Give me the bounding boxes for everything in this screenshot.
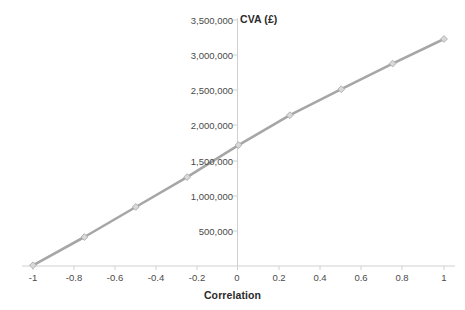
cva-correlation-chart: CVA (£) Correlation 500,000 1,000,000 1,… bbox=[0, 0, 465, 310]
x-tick-label-1: 1 bbox=[441, 272, 446, 283]
x-tick-label-0-6: 0.6 bbox=[354, 272, 367, 283]
y-tick-label-1500000: 1,500,000 bbox=[191, 156, 233, 167]
x-axis-title: Correlation bbox=[0, 289, 465, 301]
x-tick-label-neg0-2: -0.2 bbox=[189, 272, 205, 283]
y-tick-label-3000000: 3,000,000 bbox=[191, 50, 233, 61]
x-axis-tick-marks bbox=[33, 266, 444, 270]
series-line-cva bbox=[33, 39, 444, 265]
x-tick-label-neg0-4: -0.4 bbox=[148, 272, 164, 283]
x-tick-label-neg1: -1 bbox=[29, 272, 37, 283]
chart-title: CVA (£) bbox=[240, 13, 277, 25]
y-tick-label-1000000: 1,000,000 bbox=[191, 191, 233, 202]
x-tick-label-0-4: 0.4 bbox=[313, 272, 326, 283]
y-tick-label-3500000: 3,500,000 bbox=[191, 15, 233, 26]
y-axis-tick-marks bbox=[233, 20, 238, 231]
y-tick-label-500000: 500,000 bbox=[199, 226, 233, 237]
y-tick-label-2500000: 2,500,000 bbox=[191, 85, 233, 96]
x-tick-label-neg0-6: -0.6 bbox=[107, 272, 123, 283]
x-tick-label-0: 0 bbox=[234, 272, 239, 283]
x-tick-label-0-2: 0.2 bbox=[272, 272, 285, 283]
x-tick-label-neg0-8: -0.8 bbox=[66, 272, 82, 283]
y-tick-label-2000000: 2,000,000 bbox=[191, 120, 233, 131]
x-tick-label-0-8: 0.8 bbox=[395, 272, 408, 283]
